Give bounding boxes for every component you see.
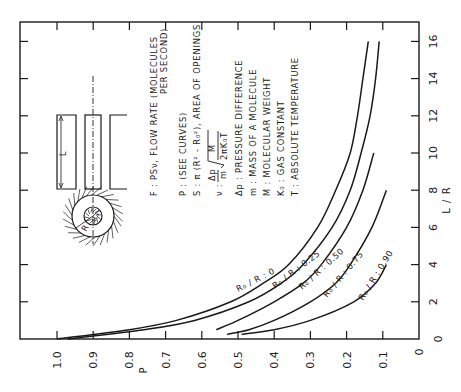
lr-tick-label: 8 [427,187,440,194]
lr-tick-label: 4 [427,261,440,268]
def-K0: K₀ : GAS CONSTANT [276,100,286,196]
def-flow-rate: F : PSν, FLOW RATE (MOLECULES [149,36,159,196]
p-tick-label: 0.6 [196,351,209,369]
diagram-right-wall [110,115,127,189]
definitions-legend: F : PSν, FLOW RATE (MOLECULES PER SECOND… [149,24,300,197]
def-nu-denominator: m [218,170,228,179]
lr-tick-label: 10 [427,146,440,160]
def-nu-prefix: ν : [214,184,224,196]
def-s: S : π (R² - R₀²), AREA OF OPENINGS [192,24,202,196]
lr-tick-label: 0 [432,336,445,343]
def-T: T : ABSOLUTE TEMPERATURE [290,57,300,197]
p-tick-label: 0.9 [87,351,100,369]
def-m: m : MASS OF A MOLECULE [248,69,258,196]
def-nu-numerator: Δp [207,168,217,181]
p-tick-label: 0.3 [304,351,317,369]
top-ticks [57,22,383,30]
p-tick-label: 0 [413,349,426,356]
def-p: P : (SEE CURVES) [178,112,188,196]
lr-axis-ticks [411,41,419,301]
p-tick-label: 0.8 [123,351,136,369]
lr-tick-label: 2 [427,298,440,305]
conductance-chart: 1.00.90.80.70.60.50.40.30.20.10 02468101… [0,0,461,392]
diagram-label-R0: R₀ [90,211,101,222]
p-tick-label: 0.4 [268,351,281,369]
lr-tick-label: 12 [427,109,440,123]
lr-axis-title: L / R [441,186,452,213]
lr-tick-label: 16 [427,34,440,48]
def-delta-p: Δp : PRESSURE DIFFERENCE [234,60,244,196]
lr-tick-label: 14 [427,72,440,86]
p-tick-label: 0.5 [232,351,245,369]
diagram-label-L: L [58,151,68,156]
p-tick-label: 0.7 [160,351,173,369]
p-axis-title: P [138,366,149,373]
def-nu-root-denominator: 2πK₀T [219,132,229,160]
def-flow-rate-cont: PER SECOND) [159,28,169,94]
def-M: M : MOLECULAR WEIGHT [262,77,272,196]
lr-tick-label: 6 [427,224,440,231]
p-axis-tick-labels: 1.00.90.80.70.60.50.40.30.20.10 [51,349,426,369]
p-tick-label: 1.0 [51,351,64,369]
p-tick-label: 0.2 [341,351,354,369]
left-ticks [20,41,28,301]
def-nu-root-numerator: M [207,144,217,152]
p-tick-label: 0.1 [377,351,390,369]
def-nu: ν : Δp m M 2πK₀T [207,130,229,196]
